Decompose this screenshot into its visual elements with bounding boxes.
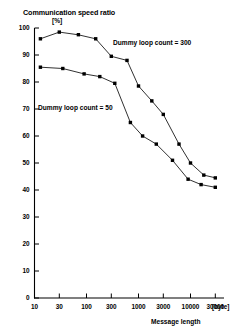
data-point-marker — [177, 142, 180, 145]
data-point-marker — [61, 67, 64, 70]
chart-container: Communication speed ratio [%] Message le… — [0, 0, 241, 332]
data-point-marker — [199, 183, 202, 186]
data-point-marker — [113, 82, 116, 85]
data-point-marker — [186, 178, 189, 181]
data-point-marker — [39, 66, 42, 69]
data-point-marker — [214, 176, 217, 179]
data-point-marker — [77, 33, 80, 36]
data-point-marker — [39, 37, 42, 40]
data-point-marker — [82, 72, 85, 75]
data-point-marker — [202, 173, 205, 176]
data-point-marker — [125, 59, 128, 62]
y-axis-ticks — [35, 28, 40, 298]
series-line-0 — [40, 32, 215, 178]
series-line-1 — [40, 67, 215, 187]
data-point-marker — [94, 37, 97, 40]
data-point-marker — [58, 30, 61, 33]
data-point-marker — [150, 99, 153, 102]
data-point-marker — [98, 75, 101, 78]
data-point-marker — [110, 55, 113, 58]
data-point-marker — [162, 113, 165, 116]
chart-plot-area — [0, 0, 241, 332]
data-point-marker — [141, 134, 144, 137]
series-markers — [39, 30, 217, 189]
data-point-marker — [214, 186, 217, 189]
x-axis-ticks — [35, 294, 216, 299]
data-point-marker — [171, 159, 174, 162]
data-point-marker — [155, 142, 158, 145]
data-point-marker — [189, 161, 192, 164]
data-point-marker — [129, 121, 132, 124]
data-point-marker — [137, 84, 140, 87]
